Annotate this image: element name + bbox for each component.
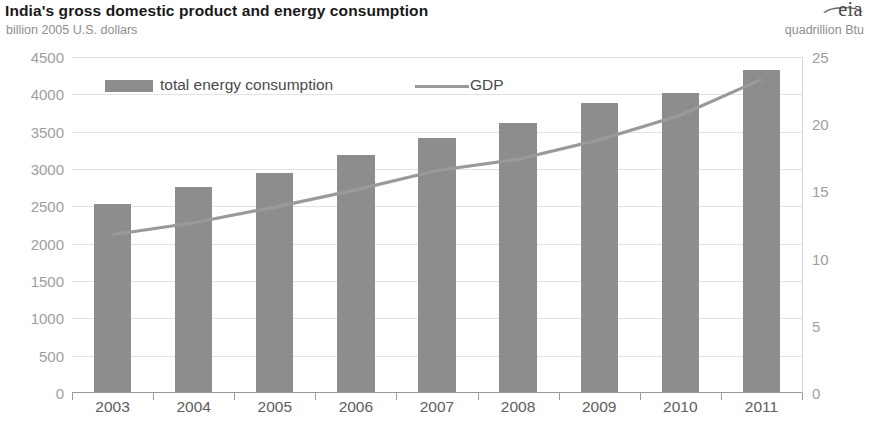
eia-logo: eia (838, 0, 863, 21)
x-tick-label-2011: 2011 (716, 399, 806, 415)
left-tick-label: 1000 (2, 311, 64, 326)
x-tick-mark (559, 393, 560, 400)
right-tick-label: 10 (812, 252, 858, 267)
right-tick-label: 20 (812, 117, 858, 132)
x-tick-label-2006: 2006 (311, 399, 401, 415)
left-tick-label: 2000 (2, 237, 64, 252)
right-tick-label: 5 (812, 319, 858, 334)
left-tick-label: 1500 (2, 274, 64, 289)
x-tick-label-2004: 2004 (149, 399, 239, 415)
left-tick-label: 0 (2, 386, 64, 401)
right-axis-units-label: quadrillion Btu (785, 23, 864, 37)
left-axis-units-label: billion 2005 U.S. dollars (6, 23, 137, 37)
x-tick-label-2009: 2009 (554, 399, 644, 415)
right-tick-label: 25 (812, 50, 858, 65)
left-tick-label: 2500 (2, 199, 64, 214)
x-tick-label-2008: 2008 (473, 399, 563, 415)
right-tick-label: 15 (812, 184, 858, 199)
left-tick-label: 3000 (2, 162, 64, 177)
x-tick-mark (396, 393, 397, 400)
left-tick-label: 4000 (2, 87, 64, 102)
right-tick-label: 0 (812, 386, 858, 401)
x-tick-mark (721, 393, 722, 400)
x-tick-mark (315, 393, 316, 400)
x-tick-mark (153, 393, 154, 400)
plot-area (72, 57, 802, 393)
chart-title: India's gross domestic product and energ… (5, 2, 428, 20)
x-tick-label-2007: 2007 (392, 399, 482, 415)
x-tick-label-2010: 2010 (635, 399, 725, 415)
x-tick-mark (72, 393, 73, 400)
x-tick-label-2003: 2003 (68, 399, 158, 415)
chart-container: India's gross domestic product and energ… (0, 0, 873, 431)
x-tick-mark (802, 393, 803, 400)
x-tick-mark (640, 393, 641, 400)
left-tick-label: 3500 (2, 125, 64, 140)
x-axis-baseline (72, 392, 802, 393)
x-tick-mark (234, 393, 235, 400)
gdp-line-series (72, 57, 802, 393)
right-axis-line (802, 57, 803, 394)
x-tick-mark (478, 393, 479, 400)
left-tick-label: 4500 (2, 50, 64, 65)
x-tick-label-2005: 2005 (230, 399, 320, 415)
left-tick-label: 500 (2, 349, 64, 364)
